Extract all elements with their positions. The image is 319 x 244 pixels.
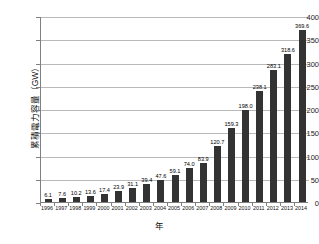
bar[interactable]: 31.1 <box>129 188 136 202</box>
bar-value-label: 47.6 <box>155 173 166 179</box>
x-axis-tick-label: 2001 <box>111 205 125 211</box>
bar-cell: 10.2 <box>69 16 83 202</box>
y-axis-tick-mark <box>36 87 40 88</box>
x-axis-tick-label: 2009 <box>223 205 237 211</box>
bar[interactable]: 39.4 <box>143 184 150 202</box>
bar-value-label: 238.1 <box>253 84 267 90</box>
bar-value-label: 7.6 <box>58 191 66 197</box>
bar-cell: 198.0 <box>239 16 253 202</box>
x-axis-tick-label: 2013 <box>280 205 294 211</box>
y-axis-title: 累積電力容量（GW） <box>28 26 40 186</box>
bar[interactable]: 6.1 <box>45 199 52 202</box>
bar-value-label: 6.1 <box>44 192 52 198</box>
bar[interactable]: 74.0 <box>186 168 193 202</box>
bar[interactable]: 159.3 <box>228 128 235 202</box>
bar-value-label: 31.1 <box>127 181 138 187</box>
x-axis-tick-label: 1996 <box>40 205 54 211</box>
y-axis-tick-label: 400 <box>285 13 319 22</box>
x-axis-tick-label: 2014 <box>294 205 308 211</box>
bar-cell: 120.7 <box>210 16 224 202</box>
x-axis-tick-label: 2006 <box>181 205 195 211</box>
y-axis-tick-mark <box>36 133 40 134</box>
bar-cell: 47.6 <box>154 16 168 202</box>
x-axis-title: 年 <box>0 219 319 231</box>
bar-cell: 6.1 <box>41 16 55 202</box>
x-axis-tick-label: 2005 <box>167 205 181 211</box>
x-axis-labels: 1996199719981999200020012002200320042005… <box>40 205 308 211</box>
bar-series: 6.17.610.213.617.423.931.139.447.659.174… <box>41 16 309 202</box>
x-axis-tick-label: 2008 <box>209 205 223 211</box>
bar-value-label: 159.3 <box>224 121 238 127</box>
bar[interactable]: 17.4 <box>101 194 108 202</box>
x-axis-tick-label: 2012 <box>266 205 280 211</box>
x-axis-tick-label: 2007 <box>195 205 209 211</box>
bar-cell: 83.9 <box>196 16 210 202</box>
x-axis-tick-label: 2004 <box>153 205 167 211</box>
bar-value-label: 198.0 <box>239 103 253 109</box>
bar-cell: 13.6 <box>83 16 97 202</box>
bar-value-label: 74.0 <box>184 161 195 167</box>
bar[interactable]: 59.1 <box>172 175 179 202</box>
bar-value-label: 10.2 <box>71 190 82 196</box>
bar-cell: 59.1 <box>168 16 182 202</box>
bar-value-label: 23.9 <box>113 184 124 190</box>
bar[interactable]: 7.6 <box>59 198 66 202</box>
bar-value-label: 59.1 <box>170 168 181 174</box>
bar-value-label: 283.1 <box>267 63 281 69</box>
bar-cell: 283.1 <box>267 16 281 202</box>
bar[interactable]: 120.7 <box>214 146 221 202</box>
bar-value-label: 83.9 <box>198 156 209 162</box>
x-axis-tick-label: 2003 <box>139 205 153 211</box>
bar[interactable]: 238.1 <box>256 91 263 202</box>
plot-area: 6.17.610.213.617.423.931.139.447.659.174… <box>40 17 308 203</box>
y-axis-tick-label: 250 <box>285 83 319 92</box>
bar[interactable]: 283.1 <box>270 70 277 202</box>
bar-value-label: 17.4 <box>99 187 110 193</box>
y-axis-tick-label: 350 <box>285 36 319 45</box>
bar[interactable]: 13.6 <box>87 196 94 202</box>
bar[interactable]: 198.0 <box>242 110 249 202</box>
bar-cell: 159.3 <box>224 16 238 202</box>
bar-cell: 238.1 <box>253 16 267 202</box>
y-axis-tick-mark <box>36 17 40 18</box>
y-axis-tick-mark <box>36 64 40 65</box>
bar-value-label: 13.6 <box>85 189 96 195</box>
bar-cell: 31.1 <box>126 16 140 202</box>
bar-cell: 17.4 <box>97 16 111 202</box>
x-axis-tick-label: 2011 <box>252 205 266 211</box>
bar-value-label: 120.7 <box>210 139 224 145</box>
bar[interactable]: 10.2 <box>73 197 80 202</box>
x-axis-tick-label: 1997 <box>54 205 68 211</box>
bar[interactable]: 83.9 <box>200 163 207 202</box>
y-axis-tick-label: 50 <box>285 176 319 185</box>
bar-cell: 23.9 <box>112 16 126 202</box>
y-axis-tick-label: 200 <box>285 106 319 115</box>
bar[interactable]: 47.6 <box>157 180 164 202</box>
bar[interactable]: 23.9 <box>115 191 122 202</box>
bar-cell: 39.4 <box>140 16 154 202</box>
x-axis-tick-label: 2010 <box>238 205 252 211</box>
y-axis-tick-label: 150 <box>285 129 319 138</box>
bar-cell: 7.6 <box>55 16 69 202</box>
bar-cell: 74.0 <box>182 16 196 202</box>
y-axis-tick-mark <box>36 40 40 41</box>
x-axis-tick-label: 1998 <box>68 205 82 211</box>
y-axis-tick-mark <box>36 110 40 111</box>
bar-value-label: 39.4 <box>141 177 152 183</box>
bar-value-label: 369.6 <box>295 23 309 29</box>
y-axis-tick-label: 100 <box>285 153 319 162</box>
chart-container: 累積電力容量（GW） 6.17.610.213.617.423.931.139.… <box>0 0 319 244</box>
x-axis-tick-label: 2000 <box>96 205 110 211</box>
x-axis-tick-label: 2002 <box>125 205 139 211</box>
x-axis-tick-label: 1999 <box>82 205 96 211</box>
y-axis-tick-mark <box>36 180 40 181</box>
bar-value-label: 318.6 <box>281 47 295 53</box>
y-axis-tick-mark <box>36 157 40 158</box>
y-axis-tick-label: 300 <box>285 60 319 69</box>
